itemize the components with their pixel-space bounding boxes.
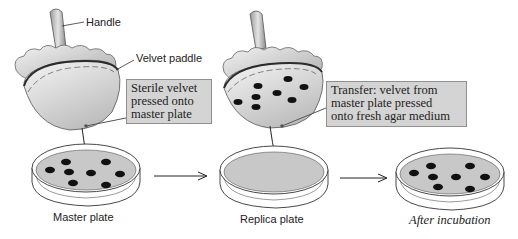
master-plate-caption: Master plate [53,211,114,223]
velvet-leader-line [116,60,134,70]
incubated-plate [396,148,504,210]
velvet-paddle-transfer [223,11,323,128]
right-arrow-1 [154,172,207,180]
transfer-callout: Transfer: velvet from master plate press… [326,81,467,127]
replica-plate [220,146,328,208]
handle-leader-line [62,22,84,26]
handle-label: Handle [86,16,121,28]
replica-plate-caption: Replica plate [240,213,304,225]
master-plate [32,144,140,206]
transfer-callout-line-3: onto fresh agar medium [331,110,462,123]
velvet-paddle-label: Velvet paddle [136,52,202,64]
after-incubation-caption: After incubation [409,213,491,228]
sterile-callout-line-3: master plate [131,108,207,121]
sterile-callout: Sterile velvet pressed onto master plate [126,79,212,124]
right-arrow-2 [340,174,387,182]
